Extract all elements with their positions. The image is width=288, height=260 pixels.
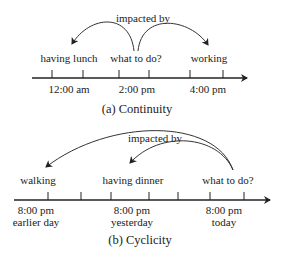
panel-continuity: impacted by having lunch what to do? wor… bbox=[32, 12, 247, 116]
arrow-to-yesterday bbox=[130, 141, 233, 170]
event-label: working bbox=[191, 52, 228, 64]
event-label: having lunch bbox=[40, 52, 98, 64]
arrow-to-future bbox=[138, 23, 208, 51]
time-label: 12:00 am bbox=[48, 83, 90, 95]
day-label: yesterday bbox=[111, 216, 154, 228]
caption: (b) Cyclicity bbox=[108, 233, 172, 247]
time-label: 8:00 pm bbox=[18, 204, 55, 216]
event-label: walking bbox=[20, 174, 56, 186]
day-label: today bbox=[212, 216, 237, 228]
axis-ticks bbox=[48, 192, 244, 200]
event-label: what to do? bbox=[202, 174, 253, 186]
panel-cyclicity: impacted by walking having dinner what t… bbox=[13, 131, 270, 247]
impacted-by-label: impacted by bbox=[128, 132, 183, 144]
event-label: having dinner bbox=[103, 174, 164, 186]
time-label: 2:00 pm bbox=[119, 83, 156, 95]
time-label: 8:00 pm bbox=[206, 204, 243, 216]
timeline-diagram: impacted by having lunch what to do? wor… bbox=[0, 0, 288, 260]
impacted-by-label: impacted by bbox=[116, 12, 171, 24]
arrow-to-past bbox=[72, 22, 134, 51]
time-label: 8:00 pm bbox=[114, 204, 151, 216]
time-label: 4:00 pm bbox=[190, 83, 227, 95]
axis-ticks bbox=[52, 70, 223, 78]
event-label: what to do? bbox=[110, 52, 161, 64]
day-label: earlier day bbox=[13, 216, 60, 228]
caption: (a) Continuity bbox=[102, 102, 173, 116]
